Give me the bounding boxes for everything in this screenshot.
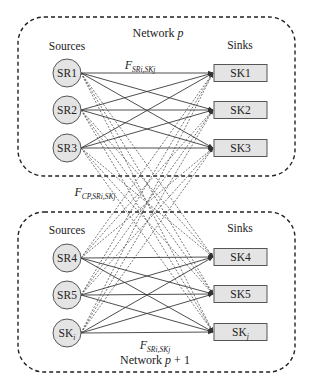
network-p-plus-1-title: Network p + 1	[120, 353, 190, 367]
flow-label-top: FSRi,SKj	[124, 58, 155, 74]
source-node: SR4	[53, 244, 81, 272]
source-label: SR3	[57, 142, 77, 154]
source-label: SR5	[57, 289, 77, 301]
cross-flow-edge	[81, 110, 213, 295]
flow-label-bottom: FSRi,SKj	[139, 338, 170, 354]
network-flow-diagram: Network p Network p + 1 Sources Sinks So…	[0, 0, 311, 387]
diagram-svg: Network p Network p + 1 Sources Sinks So…	[0, 0, 311, 387]
flow-edge	[81, 332, 213, 333]
sink-node: SK5	[214, 286, 267, 303]
sinks-header-top: Sinks	[227, 39, 253, 51]
cross-flow-edge	[81, 73, 213, 258]
source-node: SR2	[53, 96, 81, 124]
sink-label: SK1	[230, 67, 251, 79]
sink-node: SK4	[214, 249, 267, 266]
source-label: SR1	[57, 67, 77, 79]
sinks-header-bottom: Sinks	[227, 222, 253, 234]
sources-header-bottom: Sources	[49, 224, 86, 236]
source-label: SR4	[57, 252, 77, 264]
sources-header-top: Sources	[49, 40, 86, 52]
sink-label: SK4	[230, 251, 251, 263]
network-p-title: Network p	[133, 26, 184, 40]
sink-label: SK2	[230, 104, 251, 116]
source-label: SR2	[57, 104, 77, 116]
sink-node: SK2	[214, 102, 267, 119]
flow-edge	[81, 257, 213, 295]
cross-flow-label: FCP,SRi,SKj	[74, 185, 116, 201]
source-node: SR5	[53, 281, 81, 309]
sink-node: SK1	[214, 65, 267, 82]
source-node: SKi	[53, 319, 81, 347]
sink-node: SKj	[214, 324, 267, 342]
sink-label: SK3	[230, 142, 251, 154]
sink-label: SK5	[230, 288, 251, 300]
source-node: SR3	[53, 134, 81, 162]
flow-edge	[81, 257, 213, 258]
sink-node: SK3	[214, 140, 267, 157]
nodes: SR1SR2SR3SR4SR5SKiSK1SK2SK3SK4SK5SKj	[53, 59, 267, 347]
source-node: SR1	[53, 59, 81, 87]
